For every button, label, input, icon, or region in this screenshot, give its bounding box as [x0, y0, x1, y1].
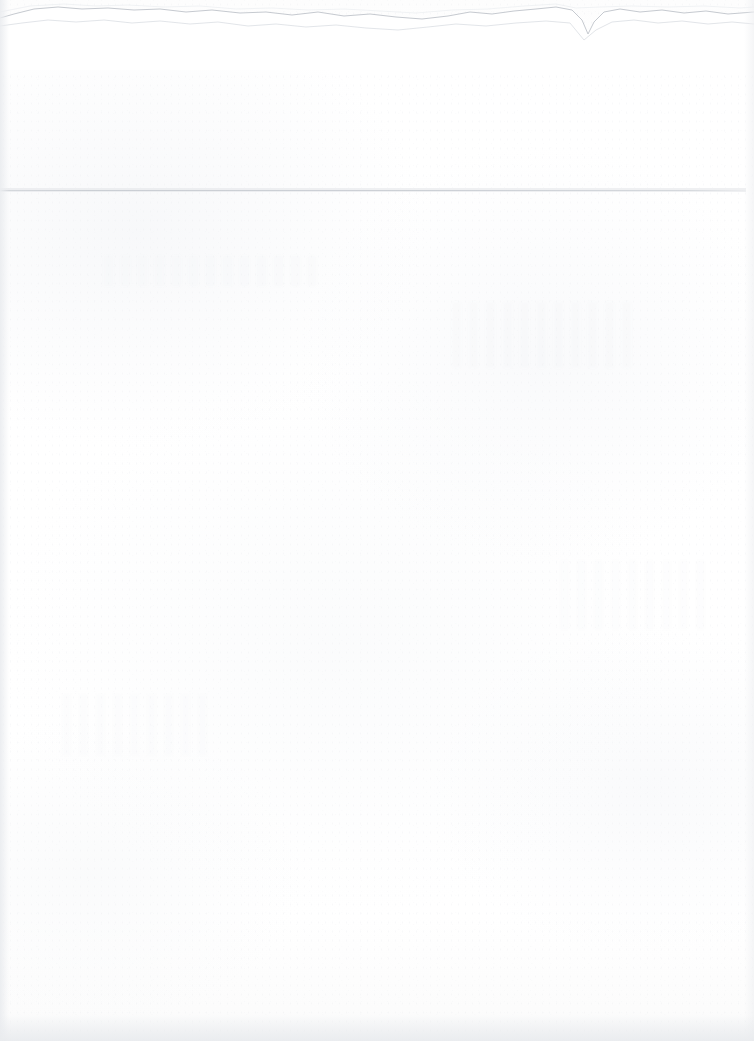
scanned-page [0, 0, 754, 1041]
paper-background [0, 0, 754, 1041]
